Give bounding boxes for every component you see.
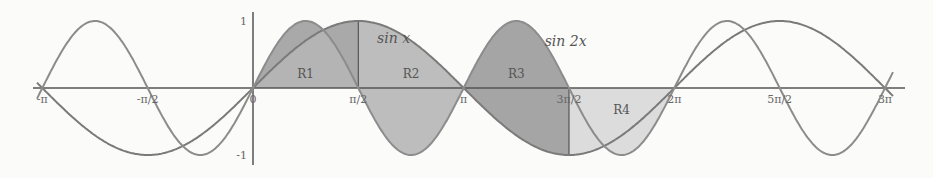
region-label-r4: R4 — [613, 103, 630, 117]
region-label-r3: R3 — [508, 67, 525, 81]
y-tick-label: 1 — [240, 15, 247, 28]
x-tick-label: 3π/2 — [557, 93, 582, 106]
function-label: sin 2x — [545, 33, 587, 49]
x-tick-label: π/2 — [349, 93, 367, 106]
region-r4 — [569, 88, 674, 155]
x-tick-label: -π/2 — [137, 93, 159, 106]
x-tick-label: 3π — [878, 93, 892, 106]
x-tick-label: 2π — [667, 93, 681, 106]
chart: -π-π/20π/2π3π/22π5π/23π1-1R1R2R3R4sin xs… — [0, 0, 933, 178]
x-tick-label: -π — [37, 93, 48, 106]
sine-plot: -π-π/20π/2π3π/22π5π/23π1-1R1R2R3R4sin xs… — [0, 0, 933, 178]
function-label: sin x — [377, 30, 410, 46]
region-label-r2: R2 — [403, 67, 420, 81]
region-label-r1: R1 — [297, 67, 314, 81]
x-tick-label: 5π/2 — [767, 93, 792, 106]
x-tick-label: π — [460, 93, 467, 106]
y-tick-label: -1 — [236, 149, 247, 162]
x-tick-label: 0 — [250, 93, 257, 106]
